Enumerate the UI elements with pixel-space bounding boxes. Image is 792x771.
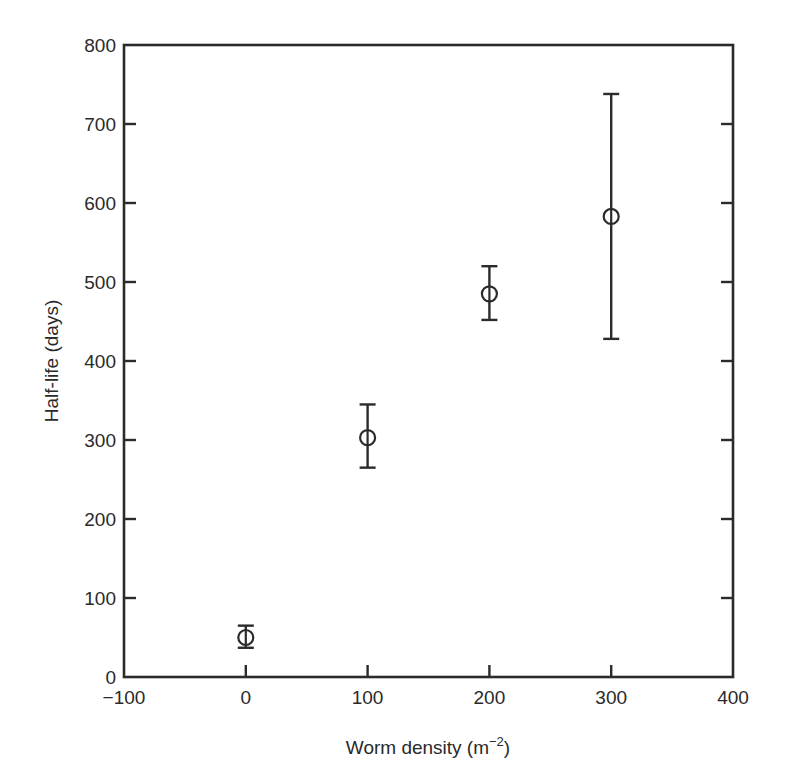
x-tick-labels: −1000100200300400 [103, 687, 749, 708]
y-tick-label: 200 [84, 509, 116, 530]
plot-frame [124, 45, 733, 677]
data-point [481, 266, 497, 320]
x-axis-title: Worm density (m−2) [346, 734, 510, 758]
x-tick-label: −100 [103, 687, 146, 708]
x-tick-label: 400 [717, 687, 749, 708]
y-tick-label: 300 [84, 430, 116, 451]
y-tick-labels: 0100200300400500600700800 [84, 35, 116, 688]
data-point [360, 404, 376, 467]
data-points [238, 94, 619, 648]
y-axis-title: Half-life (days) [41, 300, 62, 422]
x-tick-label: 300 [595, 687, 627, 708]
x-tick-label: 100 [352, 687, 384, 708]
y-tick-label: 0 [105, 667, 116, 688]
y-tick-label: 600 [84, 193, 116, 214]
data-point [603, 94, 619, 339]
data-point [238, 626, 254, 648]
y-tick-label: 700 [84, 114, 116, 135]
y-tick-label: 800 [84, 35, 116, 56]
x-tick-label: 200 [474, 687, 506, 708]
y-tick-label: 500 [84, 272, 116, 293]
y-tick-label: 100 [84, 588, 116, 609]
x-tick-label: 0 [241, 687, 252, 708]
y-tick-label: 400 [84, 351, 116, 372]
axes-box [124, 45, 733, 677]
axis-ticks [124, 124, 733, 677]
chart: −1000100200300400 0100200300400500600700… [0, 0, 792, 771]
